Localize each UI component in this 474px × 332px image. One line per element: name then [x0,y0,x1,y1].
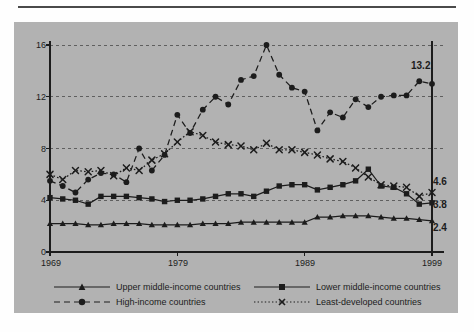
x-tick-label-1989: 1989 [285,258,325,268]
x-tick-label-1999: 1999 [412,258,452,268]
legend-swatch-solid-square [252,281,312,293]
chart-figure: 16 12 8 4 0 1969 1979 1989 1999 13.2 4.6… [0,0,474,332]
top-rule-divider [18,6,456,8]
y-tick-label-16: 16 [22,40,46,50]
end-label-lower-middle: 3.8 [433,199,447,210]
legend-swatch-dotted-x [252,296,312,308]
end-label-high-income: 13.2 [411,60,430,71]
y-tick-label-0: 0 [22,247,46,257]
x-tick-label-1969: 1969 [31,258,71,268]
legend-swatch-solid-triangle [52,281,112,293]
chart-legend: Upper middle-income countries Lower midd… [52,281,442,309]
legend-label-lower-middle-income: Lower middle-income countries [316,281,441,293]
legend-label-upper-middle-income: Upper middle-income countries [116,281,241,293]
legend-swatch-dashed-circle [52,296,112,308]
legend-label-least-developed: Least-developed countries [316,296,422,308]
chart-panel-background [14,22,458,313]
end-label-upper-middle: 2.4 [433,222,447,233]
legend-label-high-income: High-income countries [116,296,206,308]
end-label-least-developed: 4.6 [433,176,447,187]
y-tick-label-4: 4 [22,195,46,205]
x-tick-label-1979: 1979 [158,258,198,268]
y-tick-label-12: 12 [22,92,46,102]
y-tick-label-8: 8 [22,144,46,154]
